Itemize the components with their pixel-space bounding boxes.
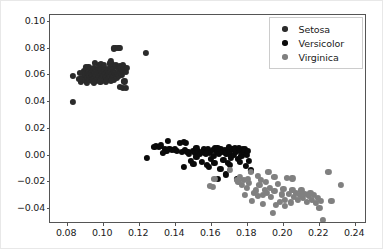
data-point	[320, 217, 326, 222]
x-tick-mark	[211, 222, 212, 226]
data-point	[143, 50, 149, 56]
data-point	[190, 161, 196, 167]
data-point	[210, 184, 216, 190]
y-tick-mark	[47, 74, 51, 75]
legend-label: Setosa	[299, 24, 331, 35]
x-tick-mark	[247, 222, 248, 226]
y-tick-label: 0.04	[25, 95, 45, 106]
data-point	[123, 85, 129, 91]
data-point	[227, 166, 233, 172]
data-point	[123, 65, 129, 71]
y-tick-mark	[47, 21, 51, 22]
legend-item: Setosa	[276, 22, 356, 36]
x-tick-label: 0.10	[92, 227, 112, 238]
data-point	[338, 182, 344, 188]
data-point	[288, 199, 294, 205]
data-point	[328, 198, 334, 204]
data-point	[268, 194, 274, 200]
x-tick-label: 0.22	[308, 227, 328, 238]
data-point	[318, 198, 324, 204]
data-point	[248, 169, 254, 175]
y-axis-tick-labels: −0.04−0.020.000.020.040.060.080.10	[1, 14, 45, 223]
x-tick-label: 0.24	[344, 227, 364, 238]
data-point	[245, 147, 251, 153]
y-tick-mark	[47, 208, 51, 209]
x-tick-label: 0.14	[164, 227, 184, 238]
data-point	[206, 164, 212, 170]
data-point	[117, 45, 123, 51]
scatter-plot-figure: −0.04−0.020.000.020.040.060.080.10 0.080…	[0, 0, 383, 249]
data-point	[271, 174, 277, 180]
x-tick-label: 0.12	[128, 227, 148, 238]
chart-legend: SetosaVersicolorVirginica	[269, 17, 363, 69]
x-tick-mark	[283, 222, 284, 226]
data-point	[289, 175, 295, 181]
y-tick-label: 0.02	[25, 121, 45, 132]
data-point	[242, 192, 248, 198]
data-point	[159, 150, 165, 156]
data-point	[70, 73, 76, 79]
data-point	[281, 202, 287, 208]
x-tick-mark	[103, 222, 104, 226]
data-point	[164, 137, 170, 143]
x-tick-label: 0.16	[200, 227, 220, 238]
legend-item: Virginica	[276, 50, 356, 64]
data-point	[270, 210, 276, 216]
data-point	[69, 99, 75, 105]
x-axis-tick-labels: 0.080.100.120.140.160.180.200.220.24	[49, 227, 366, 243]
y-tick-label: −0.04	[17, 201, 45, 212]
data-point	[271, 188, 277, 194]
x-tick-label: 0.08	[56, 227, 76, 238]
data-point	[236, 159, 242, 165]
y-tick-mark	[47, 155, 51, 156]
y-tick-label: 0.00	[25, 148, 45, 159]
y-tick-mark	[47, 181, 51, 182]
data-point	[260, 201, 266, 207]
x-tick-mark	[319, 222, 320, 226]
data-point	[144, 155, 150, 161]
legend-marker-icon	[282, 54, 288, 60]
data-point	[265, 169, 271, 175]
legend-marker-icon	[282, 40, 288, 46]
data-point	[181, 163, 187, 169]
x-tick-label: 0.20	[272, 227, 292, 238]
y-tick-label: 0.06	[25, 68, 45, 79]
data-point	[211, 160, 217, 166]
data-point	[325, 169, 331, 175]
y-tick-mark	[47, 48, 51, 49]
legend-label: Virginica	[299, 52, 339, 63]
legend-label: Versicolor	[299, 38, 345, 49]
data-point	[108, 78, 114, 84]
data-point	[249, 198, 255, 204]
data-point	[246, 180, 252, 186]
legend-marker-icon	[282, 26, 288, 32]
data-point	[217, 165, 223, 171]
y-tick-mark	[47, 101, 51, 102]
y-tick-mark	[47, 128, 51, 129]
x-tick-mark	[67, 222, 68, 226]
x-tick-mark	[139, 222, 140, 226]
data-point	[91, 79, 97, 85]
x-tick-mark	[175, 222, 176, 226]
legend-item: Versicolor	[276, 36, 356, 50]
y-tick-label: −0.02	[17, 175, 45, 186]
y-tick-label: 0.10	[25, 15, 45, 26]
y-tick-label: 0.08	[25, 41, 45, 52]
data-point	[316, 205, 322, 211]
x-tick-mark	[355, 222, 356, 226]
data-point	[121, 78, 127, 84]
x-tick-label: 0.18	[236, 227, 256, 238]
